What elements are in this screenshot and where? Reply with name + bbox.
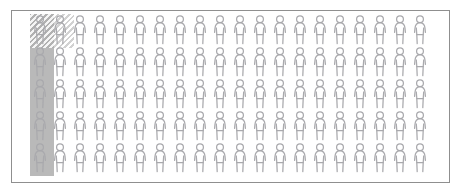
person-figure-icon bbox=[350, 45, 370, 77]
person-figure-icon bbox=[230, 109, 250, 141]
person-figure-icon bbox=[350, 109, 370, 141]
person-figure-icon bbox=[90, 45, 110, 77]
person-figure-icon bbox=[170, 13, 190, 45]
person-figure-icon bbox=[290, 45, 310, 77]
person-figure-icon bbox=[370, 77, 390, 109]
person-figure-icon bbox=[70, 45, 90, 77]
person-figure-icon bbox=[190, 109, 210, 141]
person-figure-icon bbox=[370, 45, 390, 77]
person-figure-icon bbox=[270, 77, 290, 109]
person-figure-icon bbox=[390, 45, 410, 77]
person-figure-icon bbox=[130, 45, 150, 77]
person-figure-icon bbox=[170, 141, 190, 173]
person-figure-icon bbox=[250, 141, 270, 173]
person-figure-icon bbox=[50, 141, 70, 173]
person-figure-icon bbox=[330, 77, 350, 109]
person-figure-icon bbox=[190, 45, 210, 77]
person-figure-icon bbox=[350, 77, 370, 109]
person-figure-icon bbox=[190, 13, 210, 45]
person-figure-icon bbox=[30, 13, 50, 45]
person-figure-icon bbox=[130, 77, 150, 109]
person-figure-icon bbox=[150, 77, 170, 109]
person-figure-icon bbox=[50, 77, 70, 109]
person-figure-icon bbox=[190, 141, 210, 173]
person-figure-icon bbox=[370, 13, 390, 45]
person-figure-icon bbox=[70, 77, 90, 109]
person-figure-icon bbox=[310, 45, 330, 77]
person-figure-icon bbox=[310, 109, 330, 141]
person-figure-icon bbox=[390, 77, 410, 109]
person-figure-icon bbox=[250, 45, 270, 77]
person-figure-icon bbox=[350, 141, 370, 173]
person-figure-icon bbox=[110, 45, 130, 77]
person-figure-icon bbox=[130, 109, 150, 141]
person-figure-icon bbox=[190, 77, 210, 109]
person-figure-icon bbox=[410, 77, 430, 109]
person-figure-icon bbox=[90, 109, 110, 141]
person-figure-icon bbox=[310, 77, 330, 109]
person-figure-icon bbox=[290, 13, 310, 45]
person-figure-icon bbox=[110, 77, 130, 109]
person-figure-icon bbox=[70, 141, 90, 173]
person-figure-icon bbox=[90, 77, 110, 109]
person-figure-icon bbox=[390, 141, 410, 173]
person-figure-icon bbox=[150, 45, 170, 77]
pictogram-grid bbox=[30, 13, 430, 173]
person-figure-icon bbox=[270, 109, 290, 141]
person-figure-icon bbox=[250, 77, 270, 109]
person-figure-icon bbox=[330, 45, 350, 77]
person-figure-icon bbox=[410, 141, 430, 173]
person-figure-icon bbox=[410, 13, 430, 45]
person-figure-icon bbox=[370, 109, 390, 141]
person-figure-icon bbox=[30, 109, 50, 141]
person-figure-icon bbox=[210, 109, 230, 141]
person-figure-icon bbox=[110, 109, 130, 141]
person-figure-icon bbox=[150, 13, 170, 45]
person-figure-icon bbox=[230, 77, 250, 109]
person-figure-icon bbox=[210, 45, 230, 77]
person-figure-icon bbox=[210, 77, 230, 109]
person-figure-icon bbox=[250, 13, 270, 45]
person-figure-icon bbox=[390, 109, 410, 141]
person-figure-icon bbox=[230, 13, 250, 45]
person-figure-icon bbox=[110, 141, 130, 173]
person-figure-icon bbox=[30, 141, 50, 173]
person-figure-icon bbox=[270, 141, 290, 173]
person-figure-icon bbox=[330, 13, 350, 45]
person-figure-icon bbox=[50, 109, 70, 141]
person-figure-icon bbox=[210, 141, 230, 173]
person-figure-icon bbox=[130, 13, 150, 45]
person-figure-icon bbox=[90, 13, 110, 45]
person-figure-icon bbox=[310, 13, 330, 45]
person-figure-icon bbox=[230, 141, 250, 173]
person-figure-icon bbox=[170, 77, 190, 109]
person-figure-icon bbox=[410, 45, 430, 77]
person-figure-icon bbox=[170, 45, 190, 77]
pictogram-figure bbox=[0, 0, 465, 196]
person-figure-icon bbox=[290, 141, 310, 173]
person-figure-icon bbox=[250, 109, 270, 141]
person-figure-icon bbox=[170, 109, 190, 141]
person-figure-icon bbox=[70, 13, 90, 45]
person-figure-icon bbox=[350, 13, 370, 45]
person-figure-icon bbox=[290, 109, 310, 141]
person-figure-icon bbox=[30, 45, 50, 77]
person-figure-icon bbox=[130, 141, 150, 173]
person-figure-icon bbox=[210, 13, 230, 45]
person-figure-icon bbox=[290, 77, 310, 109]
person-figure-icon bbox=[50, 45, 70, 77]
person-figure-icon bbox=[310, 141, 330, 173]
person-figure-icon bbox=[270, 13, 290, 45]
person-figure-icon bbox=[70, 109, 90, 141]
person-figure-icon bbox=[230, 45, 250, 77]
person-figure-icon bbox=[50, 13, 70, 45]
person-figure-icon bbox=[110, 13, 130, 45]
person-figure-icon bbox=[330, 141, 350, 173]
person-figure-icon bbox=[330, 109, 350, 141]
person-figure-icon bbox=[410, 109, 430, 141]
person-figure-icon bbox=[30, 77, 50, 109]
person-figure-icon bbox=[150, 109, 170, 141]
person-figure-icon bbox=[390, 13, 410, 45]
person-figure-icon bbox=[90, 141, 110, 173]
person-figure-icon bbox=[150, 141, 170, 173]
